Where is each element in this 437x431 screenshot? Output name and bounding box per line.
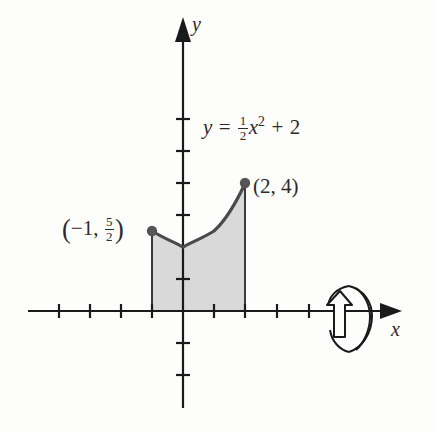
x-axis-label: x	[391, 319, 400, 339]
equation-fraction: 12	[238, 114, 248, 142]
point-label-left-fraction: 52	[105, 215, 115, 243]
point-label-left-fraction-denominator: 2	[105, 230, 115, 244]
shaded-region	[152, 183, 245, 311]
equation-equals-sign: =	[219, 115, 231, 139]
point-label-left-x-value: −1,	[71, 216, 99, 240]
equation-fraction-numerator: 1	[238, 114, 248, 129]
revolution-arrow-icon	[327, 286, 372, 352]
equation-plus-sign: +	[271, 115, 283, 139]
point-marker-left	[147, 226, 157, 236]
point-label-left-fraction-numerator: 5	[105, 215, 115, 230]
equation-constant: 2	[290, 115, 301, 139]
equation-fraction-denominator: 2	[238, 129, 248, 143]
revolution-loop-inner	[356, 288, 370, 350]
point-label-left: (−1, 52)	[62, 215, 124, 243]
revolution-loop-right	[349, 286, 372, 352]
y-axis-arrowhead	[175, 17, 191, 42]
point-marker-right	[240, 178, 250, 188]
equation-label: y = 12x2 + 2	[203, 114, 300, 142]
y-axis-label: y	[192, 14, 201, 34]
x-axis-arrowhead	[380, 303, 402, 319]
point-label-left-open-paren: (	[62, 214, 71, 244]
point-label-left-close-paren: )	[115, 214, 124, 244]
math-figure: y x y = 12x2 + 2 (2, 4) (−1, 52)	[0, 0, 437, 431]
equation-variable: x	[249, 115, 258, 139]
point-label-right: (2, 4)	[253, 176, 299, 197]
equation-exponent: 2	[258, 114, 265, 129]
equation-lhs: y	[203, 115, 212, 139]
